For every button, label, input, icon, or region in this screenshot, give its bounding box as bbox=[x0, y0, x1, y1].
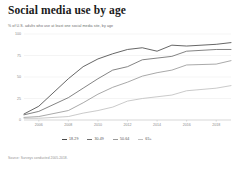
chart-title: Social media use by age bbox=[8, 4, 126, 16]
legend-label: 65+ bbox=[145, 137, 151, 141]
line-chart-svg: 10075502502006200820102012201420162018 bbox=[0, 28, 237, 130]
y-axis-tick-label: 25 bbox=[17, 97, 21, 101]
legend-item-30-49[interactable]: 30-49 bbox=[87, 137, 103, 141]
x-axis-tick-label: 2018 bbox=[212, 123, 220, 127]
x-axis-tick-label: 2010 bbox=[94, 123, 102, 127]
x-axis-tick-label: 2016 bbox=[183, 123, 191, 127]
y-axis-tick-label: 50 bbox=[17, 75, 21, 79]
series-line-50-64 bbox=[24, 61, 231, 118]
x-axis-tick-label: 2014 bbox=[153, 123, 161, 127]
legend-item-50-64[interactable]: 50-64 bbox=[113, 137, 129, 141]
y-axis-tick-label: 100 bbox=[15, 32, 21, 36]
x-axis-tick-label: 2006 bbox=[35, 123, 43, 127]
legend-label: 50-64 bbox=[120, 137, 129, 141]
y-axis-tick-label: 75 bbox=[17, 54, 21, 58]
legend-item-65+[interactable]: 65+ bbox=[138, 137, 151, 141]
plot-area: 10075502502006200820102012201420162018 bbox=[0, 28, 237, 130]
legend-swatch-icon bbox=[87, 139, 92, 140]
chart-figure: Social media use by age % of U.S. adults… bbox=[0, 0, 237, 171]
chart-legend: 18-2930-4950-6465+ bbox=[62, 137, 152, 141]
chart-source-note: Source: Surveys conducted 2005-2018. bbox=[8, 156, 68, 160]
legend-swatch-icon bbox=[138, 139, 143, 140]
x-axis-tick-label: 2008 bbox=[64, 123, 72, 127]
series-line-18-29 bbox=[24, 43, 231, 114]
legend-swatch-icon bbox=[113, 139, 118, 140]
x-axis-tick-label: 2012 bbox=[124, 123, 132, 127]
legend-label: 30-49 bbox=[94, 137, 103, 141]
legend-swatch-icon bbox=[62, 139, 67, 140]
y-axis-tick-label: 0 bbox=[19, 118, 21, 122]
legend-item-18-29[interactable]: 18-29 bbox=[62, 137, 78, 141]
legend-label: 18-29 bbox=[69, 137, 78, 141]
